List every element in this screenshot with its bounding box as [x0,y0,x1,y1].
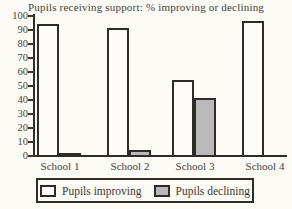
improving-swatch-icon [40,185,56,197]
y-tick-label: 30 [1,108,28,120]
y-tick-label: 100 [1,10,28,22]
bar-chart-figure: Pupils receiving support: % improving or… [0,0,292,209]
bar-improving-school-2 [107,28,129,157]
x-category-label: School 2 [99,160,161,172]
y-tick-mark [28,113,34,115]
legend: Pupils improving Pupils declining [36,178,254,203]
y-tick-mark [28,155,34,157]
legend-item-declining: Pupils declining [154,185,250,197]
legend-label-declining: Pupils declining [176,185,250,197]
declining-swatch-icon [154,185,170,197]
x-category-label: School 4 [234,160,292,172]
bar-improving-school-4 [242,21,264,157]
y-tick-mark [28,57,34,59]
y-tick-label: 10 [1,136,28,148]
y-tick-label: 70 [1,52,28,64]
y-tick-mark [28,15,34,17]
y-tick-label: 90 [1,24,28,36]
y-tick-mark [28,29,34,31]
bar-improving-school-3 [172,80,194,157]
y-tick-mark [28,43,34,45]
legend-item-improving: Pupils improving [40,185,142,197]
y-tick-label: 50 [1,80,28,92]
y-tick-label: 0 [1,150,28,162]
x-category-label: School 1 [29,160,91,172]
y-tick-label: 20 [1,122,28,134]
y-tick-label: 40 [1,94,28,106]
y-tick-label: 80 [1,38,28,50]
y-tick-mark [28,127,34,129]
y-tick-label: 60 [1,66,28,78]
y-tick-mark [28,71,34,73]
bar-declining-school-3 [194,98,216,157]
y-tick-mark [28,141,34,143]
bar-declining-school-2 [129,150,151,157]
y-tick-mark [28,85,34,87]
bar-declining-school-1 [59,153,81,157]
bar-improving-school-1 [37,24,59,157]
y-tick-mark [28,99,34,101]
x-category-label: School 3 [164,160,226,172]
legend-label-improving: Pupils improving [62,185,142,197]
